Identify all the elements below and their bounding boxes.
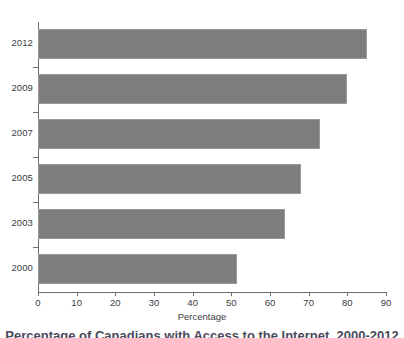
- x-tick-label: 10: [64, 297, 90, 308]
- x-tick-label: 30: [141, 297, 167, 308]
- x-axis-title: Percentage: [0, 311, 404, 322]
- x-tick-label: 40: [180, 297, 206, 308]
- x-tick: [347, 292, 348, 296]
- bar-row: [38, 67, 386, 112]
- x-tick: [193, 292, 194, 296]
- y-tick-label: 2003: [0, 217, 33, 228]
- y-tick-label: 2012: [0, 37, 33, 48]
- x-tick: [231, 292, 232, 296]
- x-tick: [38, 292, 39, 296]
- plot-area: [38, 22, 386, 292]
- bar-row: [38, 157, 386, 202]
- bar: [38, 209, 285, 239]
- x-tick-label: 0: [25, 297, 51, 308]
- x-tick: [154, 292, 155, 296]
- bar: [38, 74, 347, 104]
- x-tick-label: 90: [373, 297, 399, 308]
- bar-chart: 201220092007200520032000 010203040506070…: [0, 0, 404, 338]
- x-tick: [386, 292, 387, 296]
- x-tick-label: 20: [102, 297, 128, 308]
- bar: [38, 29, 367, 59]
- x-tick-label: 80: [334, 297, 360, 308]
- bar-row: [38, 22, 386, 67]
- bar-row: [38, 247, 386, 292]
- bar: [38, 254, 237, 284]
- bar-row: [38, 112, 386, 157]
- x-axis-line: [38, 292, 386, 293]
- x-tick-label: 60: [257, 297, 283, 308]
- bar: [38, 119, 320, 149]
- bar: [38, 164, 301, 194]
- bar-row: [38, 202, 386, 247]
- y-tick-label: 2009: [0, 82, 33, 93]
- x-tick: [77, 292, 78, 296]
- y-tick-label: 2007: [0, 127, 33, 138]
- y-tick-label: 2000: [0, 262, 33, 273]
- x-tick: [115, 292, 116, 296]
- x-tick: [270, 292, 271, 296]
- x-tick-label: 50: [218, 297, 244, 308]
- y-tick-label: 2005: [0, 172, 33, 183]
- x-tick-label: 70: [296, 297, 322, 308]
- figure-caption: Percentage of Canadians with Access to t…: [0, 329, 404, 338]
- x-tick: [309, 292, 310, 296]
